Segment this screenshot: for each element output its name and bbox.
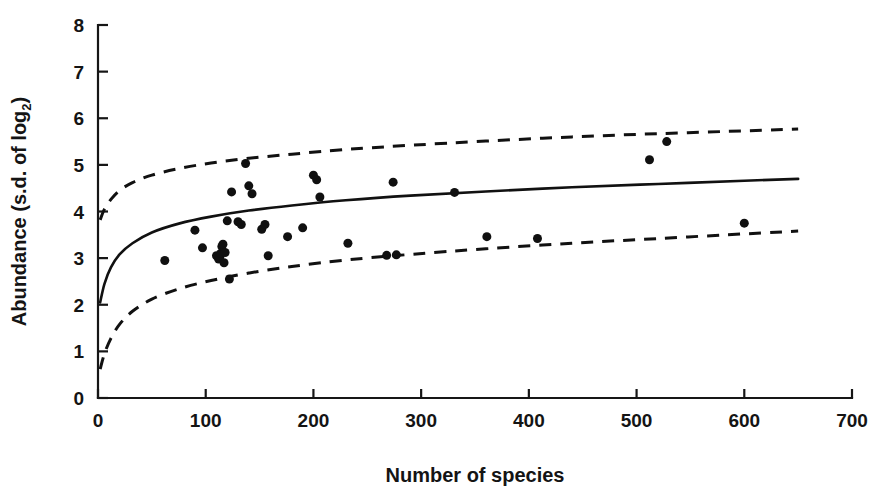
axes bbox=[98, 25, 852, 398]
x-tick-label: 300 bbox=[405, 410, 437, 431]
data-point bbox=[740, 219, 749, 228]
scatter-plot-figure: 0100200300400500600700012345678 Number o… bbox=[0, 0, 876, 500]
data-point bbox=[645, 155, 654, 164]
x-tick-label: 100 bbox=[190, 410, 222, 431]
data-point bbox=[662, 137, 671, 146]
y-tick-label: 8 bbox=[73, 15, 84, 36]
data-point bbox=[248, 189, 257, 198]
data-point bbox=[315, 193, 324, 202]
data-point bbox=[283, 232, 292, 241]
y-tick-label: 1 bbox=[73, 341, 84, 362]
y-tick-label: 3 bbox=[73, 248, 84, 269]
y-tick-label: 5 bbox=[73, 155, 84, 176]
data-point bbox=[264, 251, 273, 260]
x-tick-label: 0 bbox=[93, 410, 104, 431]
data-point bbox=[450, 188, 459, 197]
y-tick-label: 0 bbox=[73, 388, 84, 409]
data-point bbox=[260, 220, 269, 229]
data-point bbox=[237, 220, 246, 229]
plot-canvas: 0100200300400500600700012345678 Number o… bbox=[0, 0, 876, 500]
upper-confidence-curve bbox=[100, 129, 798, 220]
data-point bbox=[221, 248, 230, 257]
data-point bbox=[343, 239, 352, 248]
data-point bbox=[190, 226, 199, 235]
data-point bbox=[241, 159, 250, 168]
y-axis-title-tail: ) bbox=[8, 97, 30, 104]
lower-confidence-curve bbox=[100, 231, 798, 369]
y-axis-title: Abundance (s.d. of log2) bbox=[8, 97, 34, 326]
data-point bbox=[220, 258, 229, 267]
data-point bbox=[227, 187, 236, 196]
data-point bbox=[533, 234, 542, 243]
data-point bbox=[223, 216, 232, 225]
y-axis-title-main: Abundance (s.d. of log bbox=[8, 111, 30, 327]
data-point bbox=[160, 256, 169, 265]
y-tick-label: 7 bbox=[73, 62, 84, 83]
data-point bbox=[392, 250, 401, 259]
data-point bbox=[389, 178, 398, 187]
data-point bbox=[244, 181, 253, 190]
y-tick-label: 6 bbox=[73, 108, 84, 129]
axis-titles: Number of speciesAbundance (s.d. of log2… bbox=[8, 97, 564, 486]
data-point bbox=[225, 275, 234, 284]
fitted-curve bbox=[100, 179, 798, 303]
y-tick-label: 4 bbox=[73, 202, 84, 223]
data-point bbox=[298, 223, 307, 232]
data-point bbox=[482, 232, 491, 241]
data-point bbox=[198, 243, 207, 252]
data-point bbox=[312, 175, 321, 184]
x-tick-label: 400 bbox=[513, 410, 545, 431]
x-axis-title: Number of species bbox=[386, 464, 565, 486]
data-point bbox=[218, 240, 227, 249]
x-tick-label: 700 bbox=[836, 410, 868, 431]
y-tick-label: 2 bbox=[73, 295, 84, 316]
x-tick-label: 600 bbox=[728, 410, 760, 431]
x-tick-label: 200 bbox=[298, 410, 330, 431]
y-axis-title-subscript: 2 bbox=[19, 103, 34, 110]
data-point bbox=[382, 251, 391, 260]
x-tick-label: 500 bbox=[621, 410, 653, 431]
